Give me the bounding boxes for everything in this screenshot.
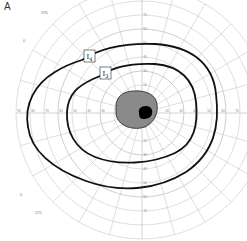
tick-up-30: 30 <box>143 69 147 73</box>
tick-right-20: 20 <box>165 109 169 113</box>
label-0-top: 0 <box>23 38 26 43</box>
tick-down-20: 20 <box>143 139 147 143</box>
grid-meridian-45 <box>152 24 231 103</box>
grid-meridian-165 <box>20 80 128 109</box>
grid-meridian-345 <box>156 117 247 146</box>
tick-down-40: 40 <box>143 167 147 171</box>
tick-left-60: 60 <box>59 109 63 113</box>
tick-down-50: 50 <box>143 181 147 185</box>
tick-right-50: 50 <box>207 109 211 113</box>
grid-meridian-60 <box>149 4 205 101</box>
tick-left-40: 40 <box>87 109 91 113</box>
tick-left-70: 70 <box>45 109 49 113</box>
tick-up-70: 70 <box>143 13 147 17</box>
grid-meridian-15 <box>156 80 247 109</box>
tick-right-60: 60 <box>221 109 225 113</box>
grid-meridian-135 <box>53 24 132 103</box>
tick-right-70: 70 <box>235 109 239 113</box>
tick-left-90: 90 <box>17 109 21 113</box>
label-225: 225 <box>35 210 42 215</box>
tick-left-30: 30 <box>101 109 105 113</box>
grid-meridian-315 <box>152 123 231 202</box>
label-195: 195 <box>41 10 48 15</box>
isopter-label-I3: I3 <box>100 67 111 79</box>
tick-down-30: 30 <box>143 153 147 157</box>
tick-up-20: 20 <box>143 83 147 87</box>
tick-right-30: 30 <box>179 109 183 113</box>
tick-left-50: 50 <box>73 109 77 113</box>
grid-meridian-255 <box>109 127 138 235</box>
tick-up-40: 40 <box>143 55 147 59</box>
visual-field-chart: 1020304050607010203040506070102030405060… <box>0 0 247 241</box>
tick-left-80: 80 <box>31 109 35 113</box>
tick-up-60: 60 <box>143 27 147 31</box>
tick-down-60: 60 <box>143 195 147 199</box>
label-0-bottom: 0 <box>20 192 23 197</box>
tick-down-70: 70 <box>143 209 147 213</box>
isopter-label-I4: I4 <box>84 50 95 62</box>
grid-meridian-300 <box>149 125 205 222</box>
grid-meridian-240 <box>79 125 135 222</box>
